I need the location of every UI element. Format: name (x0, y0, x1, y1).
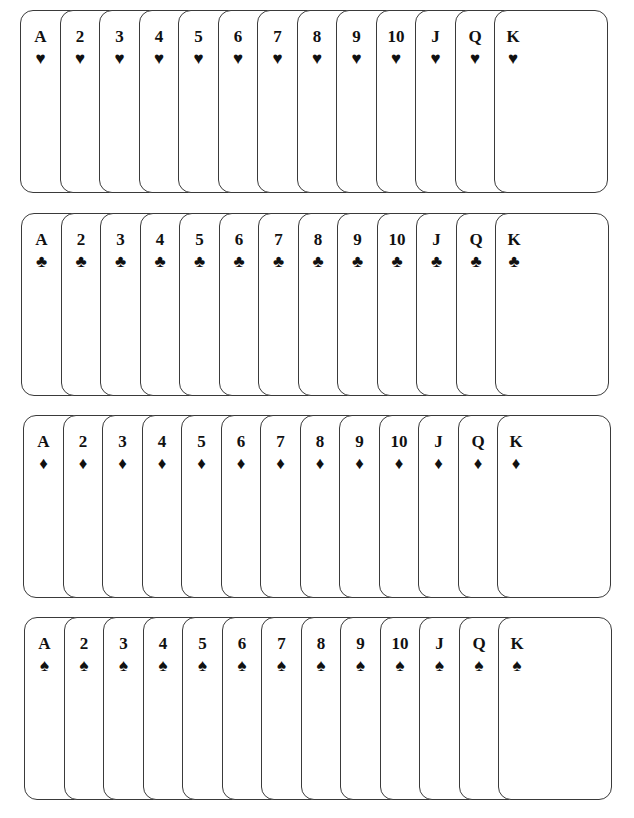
card-rank-label: 8 (301, 433, 340, 451)
spade-icon: ♠ (341, 657, 380, 675)
card-rank-label: 5 (183, 635, 222, 653)
diamond-icon: ♦ (103, 455, 142, 473)
card-rank-label: 7 (258, 28, 297, 46)
club-icon: ♣ (259, 253, 298, 271)
card-rank-label: 8 (299, 231, 338, 249)
card-rank-label: 6 (223, 635, 262, 653)
suit-row-spades: A♠2♠3♠4♠5♠6♠7♠8♠9♠10♠J♠Q♠K♠ (24, 617, 612, 801)
card-rank-label: J (416, 28, 455, 46)
club-icon: ♣ (496, 253, 532, 271)
heart-icon: ♥ (179, 50, 218, 68)
card-rank-label: 7 (259, 231, 298, 249)
club-icon: ♣ (378, 253, 417, 271)
diamond-icon: ♦ (340, 455, 379, 473)
spade-icon: ♠ (223, 657, 262, 675)
card-rank-label: 3 (101, 231, 140, 249)
spade-icon: ♠ (104, 657, 143, 675)
card-rank-label: 5 (182, 433, 221, 451)
club-icon: ♣ (299, 253, 338, 271)
card-rank-label: 2 (65, 635, 104, 653)
heart-icon: ♥ (377, 50, 416, 68)
spade-icon: ♠ (262, 657, 301, 675)
card-rank-label: 2 (62, 231, 101, 249)
card-rank-label: 5 (179, 28, 218, 46)
card-rank-label: K (495, 28, 531, 46)
suit-row-diamonds: A♦2♦3♦4♦5♦6♦7♦8♦9♦10♦J♦Q♦K♦ (23, 415, 611, 599)
diamond-icon: ♦ (182, 455, 221, 473)
heart-icon: ♥ (298, 50, 337, 68)
card-rank-label: K (496, 231, 532, 249)
club-icon: ♣ (220, 253, 259, 271)
spade-icon: ♠ (25, 657, 64, 675)
card-rank-label: 5 (180, 231, 219, 249)
heart-icon: ♥ (495, 50, 531, 68)
heart-icon: ♥ (337, 50, 376, 68)
heart-icon: ♥ (258, 50, 297, 68)
spade-icon: ♠ (499, 657, 535, 675)
heart-icon: ♥ (61, 50, 100, 68)
card-rank-label: 8 (302, 635, 341, 653)
card-rank-label: Q (457, 231, 496, 249)
spade-icon: ♠ (65, 657, 104, 675)
heart-icon: ♥ (456, 50, 495, 68)
diamond-icon: ♦ (301, 455, 340, 473)
card-rank-label: 3 (103, 433, 142, 451)
card-rank-label: 6 (219, 28, 258, 46)
card-rank-label: 8 (298, 28, 337, 46)
card-rank-label: 10 (381, 635, 420, 653)
card-rank-label: 4 (143, 433, 182, 451)
club-icon: ♣ (338, 253, 377, 271)
spade-icon: ♠ (460, 657, 499, 675)
card-rank-label: 6 (222, 433, 261, 451)
card-rank-label: 10 (378, 231, 417, 249)
card-rank-label: A (24, 433, 63, 451)
card-rank-label: 9 (341, 635, 380, 653)
club-icon: ♣ (141, 253, 180, 271)
card-rank-label: Q (456, 28, 495, 46)
card-rank-label: 4 (140, 28, 179, 46)
diamond-icon: ♦ (419, 455, 458, 473)
card-rank-label: 10 (377, 28, 416, 46)
card-k-of-clubs[interactable]: K♣ (495, 213, 609, 396)
diamond-icon: ♦ (64, 455, 103, 473)
club-icon: ♣ (101, 253, 140, 271)
card-rank-label: 2 (61, 28, 100, 46)
card-rank-label: A (21, 28, 60, 46)
diamond-icon: ♦ (498, 455, 534, 473)
spade-icon: ♠ (302, 657, 341, 675)
card-k-of-spades[interactable]: K♠ (498, 617, 612, 800)
spade-icon: ♠ (420, 657, 459, 675)
card-rank-label: K (498, 433, 534, 451)
card-rank-label: 7 (262, 635, 301, 653)
spade-icon: ♠ (183, 657, 222, 675)
suit-row-clubs: A♣2♣3♣4♣5♣6♣7♣8♣9♣10♣J♣Q♣K♣ (21, 213, 609, 397)
diamond-icon: ♦ (24, 455, 63, 473)
heart-icon: ♥ (219, 50, 258, 68)
diamond-icon: ♦ (459, 455, 498, 473)
card-rank-label: 10 (380, 433, 419, 451)
heart-icon: ♥ (140, 50, 179, 68)
card-rank-label: J (420, 635, 459, 653)
diamond-icon: ♦ (261, 455, 300, 473)
card-rank-label: Q (459, 433, 498, 451)
card-rank-label: 9 (338, 231, 377, 249)
card-rank-label: J (417, 231, 456, 249)
card-rank-label: 7 (261, 433, 300, 451)
card-k-of-diamonds[interactable]: K♦ (497, 415, 611, 598)
card-k-of-hearts[interactable]: K♥ (494, 10, 608, 193)
club-icon: ♣ (417, 253, 456, 271)
diamond-icon: ♦ (222, 455, 261, 473)
heart-icon: ♥ (100, 50, 139, 68)
card-rank-label: A (25, 635, 64, 653)
card-rank-label: 9 (340, 433, 379, 451)
spade-icon: ♠ (381, 657, 420, 675)
spade-icon: ♠ (144, 657, 183, 675)
card-rank-label: 4 (141, 231, 180, 249)
heart-icon: ♥ (416, 50, 455, 68)
card-rank-label: 3 (104, 635, 143, 653)
card-rank-label: 9 (337, 28, 376, 46)
card-rank-label: J (419, 433, 458, 451)
heart-icon: ♥ (21, 50, 60, 68)
card-rank-label: Q (460, 635, 499, 653)
card-rank-label: K (499, 635, 535, 653)
